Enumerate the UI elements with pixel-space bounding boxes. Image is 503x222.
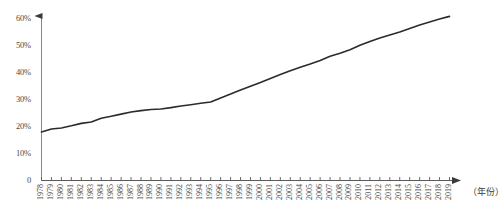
x-axis-ticks [42, 177, 450, 181]
y-tick-label: 0 [3, 175, 31, 185]
x-tick-label: 1980 [57, 184, 65, 200]
x-tick-label: 2006 [316, 184, 324, 200]
y-tick-label: 10% [3, 148, 31, 158]
x-tick-label: 1991 [166, 184, 174, 200]
y-tick-label: 20% [3, 121, 31, 131]
x-tick-label: 1985 [107, 184, 115, 200]
x-tick-label: 1982 [77, 184, 85, 200]
x-tick-label: 1996 [216, 184, 224, 200]
x-tick-label: 2017 [425, 184, 433, 200]
x-tick-label: 2005 [306, 184, 314, 200]
x-axis-title: （年份） [468, 185, 503, 198]
x-tick-label: 1988 [137, 184, 145, 200]
x-tick-label: 2013 [385, 184, 393, 200]
x-tick-label: 1978 [37, 184, 45, 200]
x-tick-label: 2019 [445, 184, 453, 200]
x-tick-label: 1983 [87, 184, 95, 200]
x-tick-label: 2003 [286, 184, 294, 200]
x-tick-label: 1998 [236, 184, 244, 200]
x-tick-label: 2009 [345, 184, 353, 200]
x-tick-label: 2000 [256, 184, 264, 200]
x-tick-label: 1995 [206, 184, 214, 200]
x-tick-label: 1997 [226, 184, 234, 200]
x-tick-label: 2014 [395, 184, 403, 200]
y-tick-label: 50% [3, 40, 31, 50]
data-series-line [42, 16, 450, 132]
x-tick-label: 2004 [296, 184, 304, 200]
x-tick-label: 2007 [326, 184, 334, 200]
x-tick-label: 1984 [97, 184, 105, 200]
x-tick-label: 2018 [435, 184, 443, 200]
y-tick-label: 40% [3, 67, 31, 77]
x-tick-label: 1979 [47, 184, 55, 200]
x-tick-label: 1987 [127, 184, 135, 200]
y-tick-label: 60% [3, 13, 31, 23]
x-tick-label: 2008 [336, 184, 344, 200]
x-tick-label: 2012 [375, 184, 383, 200]
x-tick-label: 2001 [266, 184, 274, 200]
x-tick-label: 2016 [415, 184, 423, 200]
x-tick-label: 1999 [246, 184, 254, 200]
x-tick-label: 1994 [196, 184, 204, 200]
x-tick-label: 1981 [67, 184, 75, 200]
x-tick-label: 1992 [176, 184, 184, 200]
x-tick-label: 1989 [146, 184, 154, 200]
x-tick-label: 2011 [365, 184, 373, 200]
x-tick-label: 2002 [276, 184, 284, 200]
y-tick-label: 30% [3, 94, 31, 104]
x-tick-label: 1986 [117, 184, 125, 200]
x-tick-label: 1990 [156, 184, 164, 200]
x-tick-label: 2010 [355, 184, 363, 200]
x-tick-label: 1993 [186, 184, 194, 200]
x-tick-label: 2015 [405, 184, 413, 200]
